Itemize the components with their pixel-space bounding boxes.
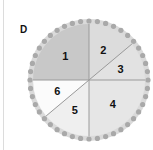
rim-dot [62, 24, 67, 29]
rim-dot [70, 134, 75, 139]
rim-dot [28, 86, 33, 91]
rim-dot [55, 28, 60, 33]
rim-dot [33, 102, 38, 107]
rim-dot [37, 109, 42, 114]
rim-dot [70, 21, 75, 26]
rim-dot [27, 77, 32, 82]
rim-dot [136, 46, 141, 51]
sector-label: 2 [100, 44, 106, 56]
rim-dot [55, 127, 60, 132]
rim-dot [103, 134, 108, 139]
rim-dot [95, 19, 100, 24]
rim-dot [95, 136, 100, 141]
rim-dot [30, 94, 35, 99]
rim-dot [145, 69, 150, 74]
rim-dot [125, 33, 130, 38]
rim-dot [131, 116, 136, 121]
rim-dot [42, 39, 47, 44]
rim-dot [42, 116, 47, 121]
sector-label: 5 [72, 104, 78, 116]
rim-dot [118, 127, 123, 132]
rim-dot [145, 86, 150, 91]
rim-dot [131, 39, 136, 44]
rim-dot [118, 28, 123, 33]
rim-dot [37, 46, 42, 51]
rim-dot [48, 33, 53, 38]
rim-dot [28, 69, 33, 74]
rim-dot [111, 131, 116, 136]
rim-dot [140, 53, 145, 58]
sector-circle-diagram: 123456 [0, 0, 153, 150]
rim-dot [30, 61, 35, 66]
rim-dot [78, 136, 83, 141]
sector-label: 1 [62, 50, 68, 62]
rim-dot [143, 61, 148, 66]
rim-dot [78, 19, 83, 24]
rim-dot [136, 109, 141, 114]
sector-1 [33, 24, 89, 80]
rim-dot [86, 18, 91, 23]
sector-4 [89, 80, 145, 136]
sector-label: 6 [54, 85, 60, 97]
rim-dot [103, 21, 108, 26]
rim-dot [62, 131, 67, 136]
rim-dot [140, 102, 145, 107]
rim-dot [86, 136, 91, 141]
rim-dot [33, 53, 38, 58]
sector-label: 3 [118, 63, 124, 75]
rim-dot [111, 24, 116, 29]
rim-dot [143, 94, 148, 99]
rim-dot [145, 77, 150, 82]
rim-dot [48, 122, 53, 127]
rim-dot [125, 122, 130, 127]
sector-label: 4 [110, 98, 117, 110]
